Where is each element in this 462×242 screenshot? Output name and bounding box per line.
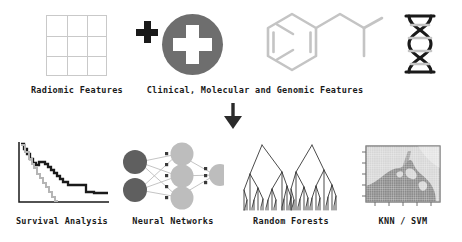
clinical-features-label: Clinical, Molecular and Genomic Features [130,85,380,96]
dna-helix-icon [402,14,438,76]
knn-svm-label: KNN / SVM [356,216,450,227]
random-forests-label: Random Forests [238,216,344,227]
medical-cross-circle-icon [162,14,223,75]
down-arrow-icon [220,102,246,130]
neural-networks-label: Neural Networks [120,216,226,227]
figure-canvas: Radiomic Features Clinical, Molecular an… [0,0,462,242]
kaplan-meier-curve-icon [12,140,112,210]
decision-trees-icon [242,142,338,212]
survival-analysis-label: Survival Analysis [6,216,118,227]
benzene-molecule-icon [258,10,386,76]
plus-operator-icon [133,18,161,46]
neural-network-icon [120,142,224,210]
grid-3x3-icon [46,15,107,76]
decision-boundary-scatter-icon [358,142,446,212]
